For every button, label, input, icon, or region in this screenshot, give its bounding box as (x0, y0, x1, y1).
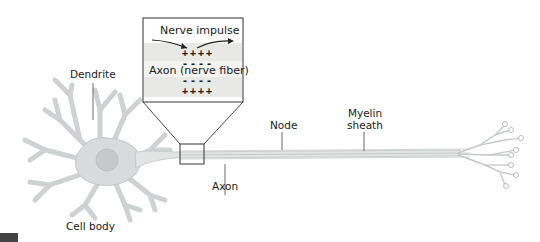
corner-marker (0, 233, 18, 242)
axon-label: Axon (212, 180, 238, 192)
cell-body-label: Cell body (66, 220, 115, 232)
myelin-label-line1: Myelin (346, 107, 384, 119)
neuron-diagram: Nerve impulse ++++ ---- Axon (nerve fibe… (0, 0, 540, 242)
myelin-label-line2: sheath (346, 119, 384, 131)
node-label: Node (270, 119, 297, 131)
positive-charges-top: ++++ (182, 47, 214, 58)
myelin-sheath-label: Myelin sheath (346, 107, 384, 131)
inset-title: Nerve impulse (160, 24, 240, 37)
positive-charges-bottom: ++++ (182, 85, 214, 96)
nucleus (96, 149, 118, 171)
dendrite-label: Dendrite (70, 68, 116, 80)
